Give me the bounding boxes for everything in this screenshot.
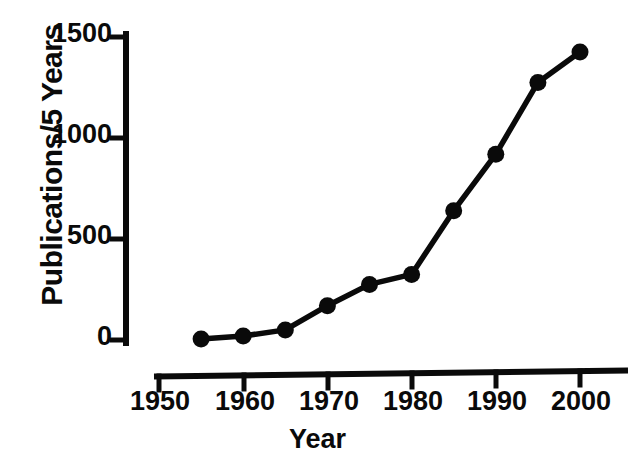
x-axis-label: Year (0, 424, 635, 455)
series-line (201, 52, 580, 339)
data-point-1965 (277, 321, 294, 338)
data-point-1955 (193, 331, 210, 348)
data-series-publications (193, 44, 589, 348)
y-axis (112, 34, 126, 343)
data-point-1990 (487, 146, 504, 163)
plot-area (0, 0, 635, 467)
chart-figure: Publications/5 Years 1500 1000 500 0 195… (0, 0, 635, 467)
data-point-2000 (572, 44, 589, 61)
x-axis (157, 371, 625, 391)
data-point-1995 (529, 74, 546, 91)
data-point-1970 (319, 297, 336, 314)
data-point-1985 (445, 202, 462, 219)
data-point-1960 (235, 328, 252, 345)
data-point-1980 (403, 266, 420, 283)
data-point-1975 (361, 276, 378, 293)
